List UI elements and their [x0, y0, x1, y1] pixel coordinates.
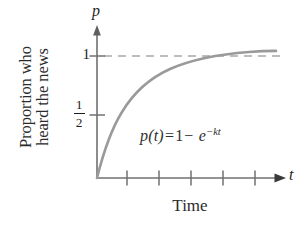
fraction-denominator: 2 [74, 116, 85, 130]
x-axis-arrowhead [275, 174, 287, 183]
equation-exponent: −kt [206, 126, 221, 137]
equation-minus: − [183, 127, 194, 144]
equation-lhs: p(t) [140, 127, 164, 144]
equation-annotation: p(t)=1− e−kt [140, 126, 221, 145]
fraction-bar [74, 113, 85, 114]
fraction-numerator: 1 [74, 98, 85, 112]
equation-base: e [199, 127, 206, 144]
exponential-growth-figure: Proportion who heard the news 1 1 [0, 0, 308, 228]
y-tick-label-half: 1 2 [68, 98, 90, 129]
y-tick-label-one: 1 [70, 46, 90, 63]
x-axis-caption: Time [140, 196, 240, 216]
x-axis-symbol-label: t [289, 166, 293, 184]
plot-canvas [0, 0, 308, 228]
equation-equals: = [164, 127, 175, 144]
y-axis-symbol-label: p [92, 2, 100, 20]
exponential-curve [97, 51, 276, 178]
y-axis-arrowhead [93, 25, 101, 36]
